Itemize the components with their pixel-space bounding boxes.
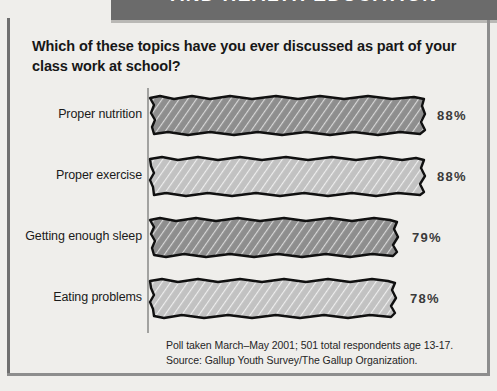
bar-shape-0 [148,94,428,137]
bar-segment [148,155,428,198]
source-note: Poll taken March–May 2001; 501 total res… [166,338,453,368]
source-note-line-2: Source: Gallup Youth Survey/The Gallup O… [166,353,453,368]
infographic-page: AND HEALTH EDUCATION Which of these topi… [0,0,497,391]
value-label: 78% [410,291,440,306]
bar-shape-2 [148,216,400,259]
category-label: Proper exercise [56,168,142,182]
bar-chart: Proper nutrition [0,0,497,391]
bar-shape-1 [148,155,428,198]
bar-segment [148,277,398,320]
bar-shape-3 [148,277,398,320]
category-label: Proper nutrition [58,107,142,121]
category-label: Getting enough sleep [25,229,142,243]
category-label: Eating problems [53,290,142,304]
value-label: 88% [437,169,467,184]
bar-segment [148,94,428,137]
bar-segment [148,216,400,259]
source-note-line-1: Poll taken March–May 2001; 501 total res… [166,338,453,353]
value-label: 88% [437,108,467,123]
value-label: 79% [412,230,442,245]
